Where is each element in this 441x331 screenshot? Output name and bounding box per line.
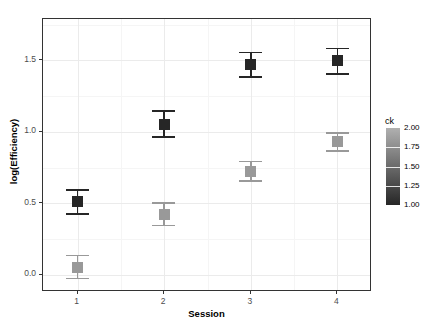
data-point[interactable] (72, 262, 83, 273)
error-bar-cap-bot (239, 180, 262, 182)
y-tick-label: 1.5 (24, 54, 36, 64)
error-bar-cap-bot (152, 225, 175, 227)
data-point[interactable] (159, 119, 170, 130)
gridline-major-y (43, 275, 370, 276)
error-bar-cap-bot (239, 76, 262, 78)
gridline-minor-y (43, 168, 370, 169)
x-tick-label: 4 (316, 296, 356, 306)
legend-tick-label: 2.00 (404, 123, 420, 132)
legend-tick-mark (386, 186, 400, 187)
data-point[interactable] (245, 166, 256, 177)
data-point[interactable] (332, 55, 343, 66)
legend-tick-mark (386, 147, 400, 148)
legend-tick-label: 1.50 (404, 162, 420, 171)
y-tick-label: 0.0 (24, 268, 36, 278)
error-bar-cap-bot (152, 136, 175, 138)
legend-tick-mark (386, 167, 400, 168)
y-tick-mark (39, 274, 42, 275)
chart-figure: 0.00.51.01.5 1234 Session log(Efficiency… (0, 0, 441, 331)
legend-title: ck (385, 116, 394, 126)
error-bar-cap-top (152, 110, 175, 112)
error-bar-cap-top (152, 202, 175, 204)
gridline-major-y (43, 60, 370, 61)
error-bar-cap-bot (326, 73, 349, 75)
x-tick-label: 1 (57, 296, 97, 306)
error-bar-cap-top (239, 52, 262, 54)
x-tick-mark (250, 291, 251, 294)
error-bar-cap-bot (66, 278, 89, 280)
error-bar-cap-top (66, 189, 89, 191)
gridline-major-y (43, 203, 370, 204)
error-bar-cap-top (66, 255, 89, 257)
y-tick-mark (39, 202, 42, 203)
legend-tick-label: 1.75 (404, 142, 420, 151)
error-bar-cap-top (326, 48, 349, 50)
error-bar-cap-bot (66, 213, 89, 215)
y-tick-mark (39, 131, 42, 132)
data-point[interactable] (72, 196, 83, 207)
error-bar-cap-bot (326, 150, 349, 152)
gridline-major-y (43, 132, 370, 133)
y-tick-label: 1.0 (24, 125, 36, 135)
gridline-major-x (164, 19, 165, 290)
y-axis-title: log(Efficiency) (8, 82, 19, 222)
data-point[interactable] (159, 209, 170, 220)
x-tick-mark (163, 291, 164, 294)
x-tick-label: 2 (143, 296, 183, 306)
error-bar-cap-top (326, 132, 349, 134)
legend-tick-label: 1.00 (404, 200, 420, 209)
x-axis-title: Session (42, 308, 371, 319)
data-point[interactable] (245, 59, 256, 70)
data-point[interactable] (332, 136, 343, 147)
x-tick-mark (77, 291, 78, 294)
y-tick-label: 0.5 (24, 197, 36, 207)
gridline-minor-y (43, 239, 370, 240)
gridline-minor-y (43, 25, 370, 26)
gridline-minor-y (43, 96, 370, 97)
x-tick-label: 3 (230, 296, 270, 306)
legend-tick-label: 1.25 (404, 181, 420, 190)
plot-panel (42, 18, 371, 291)
y-tick-mark (39, 59, 42, 60)
x-tick-mark (336, 291, 337, 294)
error-bar-cap-top (239, 161, 262, 163)
gridline-major-x (78, 19, 79, 290)
